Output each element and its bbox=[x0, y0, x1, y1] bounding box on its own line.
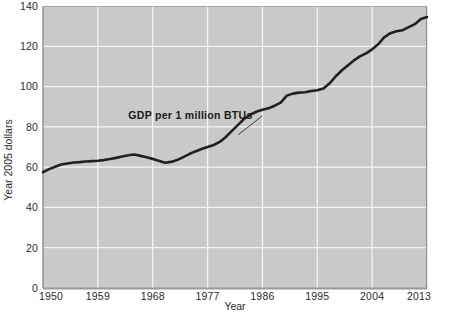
x-tick-label: 1950 bbox=[39, 290, 63, 302]
y-tick-label: 120 bbox=[20, 40, 38, 52]
y-axis-title: Year 2005 dollars bbox=[2, 119, 14, 200]
y-tick-label: 20 bbox=[26, 242, 38, 254]
x-tick-label: 2013 bbox=[407, 290, 431, 302]
y-tick-label: 0 bbox=[32, 282, 38, 294]
x-tick-label: 2004 bbox=[360, 290, 384, 302]
x-tick-label: 1959 bbox=[86, 290, 110, 302]
plot-area-background bbox=[43, 6, 427, 288]
x-tick-label: 1977 bbox=[195, 290, 219, 302]
x-tick-label: 1995 bbox=[305, 290, 329, 302]
x-axis-title: Year bbox=[224, 300, 246, 312]
x-tick-label: 1986 bbox=[250, 290, 274, 302]
gdp-per-btu-line-chart: 020406080100120140 195019591968197719861… bbox=[0, 0, 450, 326]
chart-figure: 020406080100120140 195019591968197719861… bbox=[0, 0, 450, 326]
y-tick-label: 60 bbox=[26, 161, 38, 173]
x-tick-label: 1968 bbox=[141, 290, 165, 302]
y-tick-label: 40 bbox=[26, 201, 38, 213]
annotation-gdp-per-btu: GDP per 1 million BTUs bbox=[128, 109, 252, 121]
y-tick-label: 80 bbox=[26, 121, 38, 133]
y-tick-label: 140 bbox=[20, 0, 38, 12]
y-tick-label: 100 bbox=[20, 80, 38, 92]
